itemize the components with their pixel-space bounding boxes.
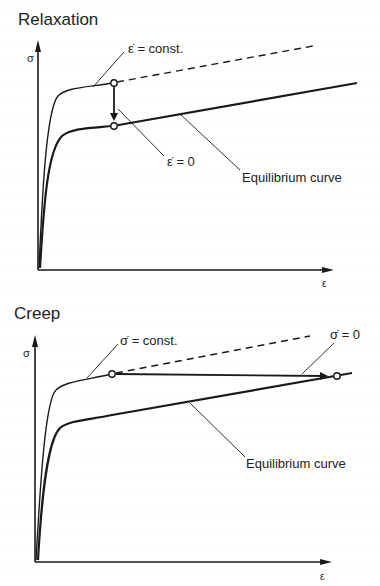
creep-axes: [32, 335, 332, 565]
label-creep-equilibrium: Equilibrium curve: [246, 456, 346, 471]
creep-strain-arrow: [116, 374, 326, 376]
creep-diagram: σ ε σ̇ = const. σ̇ = 0 Equilibrium curve: [0, 290, 380, 586]
creep-x-axis-label: ε: [320, 571, 325, 582]
creep-start-point: [109, 371, 115, 377]
creep-panel: Creep σ ε σ̇ = const.: [0, 290, 380, 586]
creep-end-point: [334, 373, 340, 379]
label-strain-rate-zero: ε̇ = 0: [167, 154, 195, 169]
relaxation-y-axis-label: σ: [27, 52, 34, 64]
label-stress-rate-const: σ̇ = const.: [120, 333, 178, 348]
relaxation-x-axis-label: ε: [322, 278, 327, 289]
relaxation-diagram: σ ε ε̇ = const. ε̇ = 0 Equilibrium curve: [0, 0, 380, 290]
relaxation-panel: Relaxation σ ε ε̇ = con: [0, 0, 380, 290]
leader-stress-rate-zero: [302, 343, 334, 374]
relaxation-start-point: [111, 80, 117, 86]
relaxation-loading-curve: [39, 83, 113, 268]
label-stress-rate-zero: σ̇ = 0: [330, 327, 360, 342]
leader-strain-rate-zero: [118, 109, 164, 156]
creep-y-axis-label: σ: [23, 347, 30, 359]
label-strain-rate-const: ε̇ = const.: [128, 41, 183, 56]
leader-creep-equilibrium: [190, 403, 245, 457]
label-relaxation-equilibrium: Equilibrium curve: [242, 170, 342, 185]
relaxation-end-point: [111, 123, 117, 129]
